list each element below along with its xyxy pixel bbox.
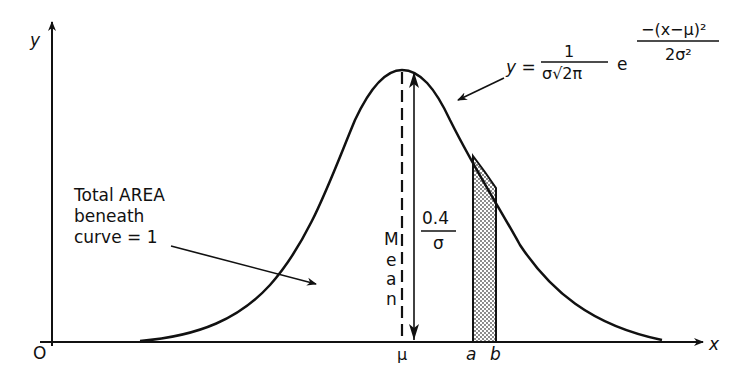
- formula-coef-numerator: 1: [564, 42, 574, 61]
- mean-label: M e a n: [384, 229, 399, 309]
- x-axis-label: x: [708, 334, 720, 354]
- area-note-line1: Total AREA: [73, 185, 165, 205]
- mean-letter: n: [386, 289, 397, 309]
- y-axis-label: y: [29, 30, 41, 50]
- formula-arrow: [458, 78, 504, 100]
- formula-exp-numerator: −(x−μ)²: [641, 20, 706, 39]
- area-note-line3: curve = 1: [74, 227, 158, 247]
- formula-lhs: y =: [505, 57, 536, 77]
- b-tick-label: b: [490, 344, 501, 364]
- formula: y = 1 σ√2π e −(x−μ)² 2σ²: [505, 20, 719, 83]
- mean-letter: a: [386, 269, 396, 289]
- origin-label: O: [33, 343, 46, 363]
- formula-exp-denominator: 2σ²: [665, 45, 692, 64]
- formula-base: e: [617, 54, 627, 74]
- area-note: Total AREA beneath curve = 1: [73, 185, 165, 247]
- mu-tick-label: μ: [397, 345, 407, 364]
- a-tick-label: a: [466, 344, 476, 364]
- mean-letter: e: [386, 250, 396, 270]
- normal-distribution-diagram: y x O μ a b M e a n 0.4 σ Total AREA ben…: [0, 0, 742, 384]
- height-label: 0.4 σ: [421, 208, 456, 253]
- height-numerator: 0.4: [422, 208, 449, 228]
- formula-coef-denominator: σ√2π: [542, 64, 583, 83]
- area-note-line2: beneath: [74, 206, 144, 226]
- height-denominator: σ: [433, 233, 444, 253]
- mean-letter: M: [384, 229, 399, 249]
